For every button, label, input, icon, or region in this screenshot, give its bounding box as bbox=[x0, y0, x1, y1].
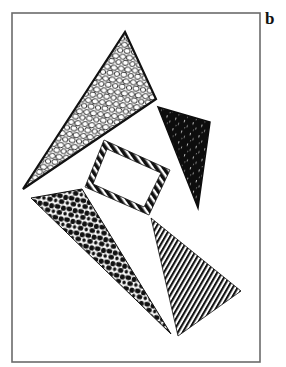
solid-black-triangle bbox=[158, 107, 210, 208]
striped-rectangle-frame bbox=[85, 140, 170, 215]
figure-canvas bbox=[0, 0, 286, 367]
striped-triangle bbox=[151, 218, 241, 336]
panel-label: b bbox=[265, 9, 274, 29]
cobblestone-triangle bbox=[23, 32, 156, 189]
